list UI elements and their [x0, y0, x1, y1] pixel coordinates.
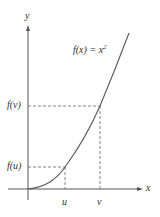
curve-f-x-squared	[28, 33, 129, 189]
f-u-label: f(u)	[7, 160, 21, 171]
plot-canvas	[0, 0, 160, 217]
function-label-text: f(x) = x	[73, 44, 103, 55]
x-axis-arrow-icon	[137, 187, 143, 191]
x-axis-label: x	[146, 182, 150, 193]
f-v-label: f(v)	[7, 99, 21, 110]
function-label: f(x) = x2	[73, 43, 107, 55]
y-axis-label: y	[25, 10, 29, 21]
y-axis-arrow-icon	[26, 25, 30, 31]
function-exponent: 2	[103, 43, 107, 51]
u-label: u	[62, 196, 67, 207]
v-label: v	[97, 196, 101, 207]
